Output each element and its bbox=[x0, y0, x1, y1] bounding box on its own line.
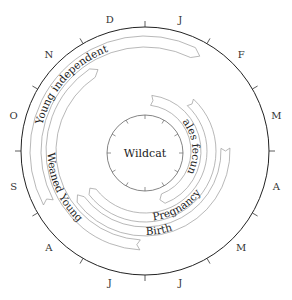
month-label: J bbox=[177, 277, 182, 288]
month-tick bbox=[207, 258, 210, 263]
month-label: S bbox=[10, 181, 17, 192]
month-tick bbox=[80, 258, 83, 263]
month-label: J bbox=[177, 14, 182, 25]
inner-tick bbox=[126, 182, 128, 185]
month-label: M bbox=[236, 242, 246, 253]
inner-tick bbox=[112, 170, 115, 172]
inner-tick bbox=[126, 120, 128, 123]
center-title: Wildcat bbox=[124, 147, 167, 160]
inner-tick bbox=[174, 170, 177, 172]
circular-calendar: Young independentWeaned YoungBirthPregna… bbox=[0, 0, 292, 300]
month-label: N bbox=[44, 49, 53, 60]
month-tick bbox=[252, 213, 257, 216]
month-label: J bbox=[107, 277, 112, 288]
month-label: D bbox=[106, 14, 114, 25]
band-label: Birth bbox=[146, 221, 174, 237]
month-label: A bbox=[272, 181, 281, 192]
band-label: Weaned Young bbox=[45, 152, 85, 224]
month-label: M bbox=[271, 110, 281, 121]
month-label: F bbox=[238, 49, 245, 60]
inner-tick bbox=[112, 134, 115, 136]
month-tick bbox=[32, 86, 37, 89]
month-tick bbox=[32, 213, 37, 216]
wildcat-breeding-cycle-diagram: Young independentWeaned YoungBirthPregna… bbox=[0, 0, 292, 300]
inner-tick bbox=[162, 120, 164, 123]
month-label: A bbox=[44, 242, 53, 253]
month-label: O bbox=[10, 110, 18, 121]
inner-tick bbox=[162, 182, 164, 185]
inner-tick bbox=[174, 134, 177, 136]
month-tick bbox=[252, 86, 257, 89]
month-tick bbox=[207, 38, 210, 43]
month-tick bbox=[80, 38, 83, 43]
